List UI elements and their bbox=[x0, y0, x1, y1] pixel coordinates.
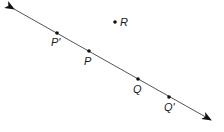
point-p bbox=[87, 49, 91, 53]
point-label-p: P bbox=[84, 56, 91, 67]
point-label-p-prime: P' bbox=[51, 37, 60, 48]
point-r bbox=[113, 20, 117, 24]
geometry-diagram bbox=[0, 0, 224, 132]
point-label-q: Q bbox=[133, 84, 142, 95]
point-q bbox=[136, 77, 140, 81]
point-p-prime bbox=[55, 31, 59, 35]
point-q-prime bbox=[167, 95, 171, 99]
line-through-points bbox=[14, 9, 211, 120]
point-label-r: R bbox=[120, 17, 128, 28]
point-label-q-prime: Q' bbox=[164, 102, 175, 113]
